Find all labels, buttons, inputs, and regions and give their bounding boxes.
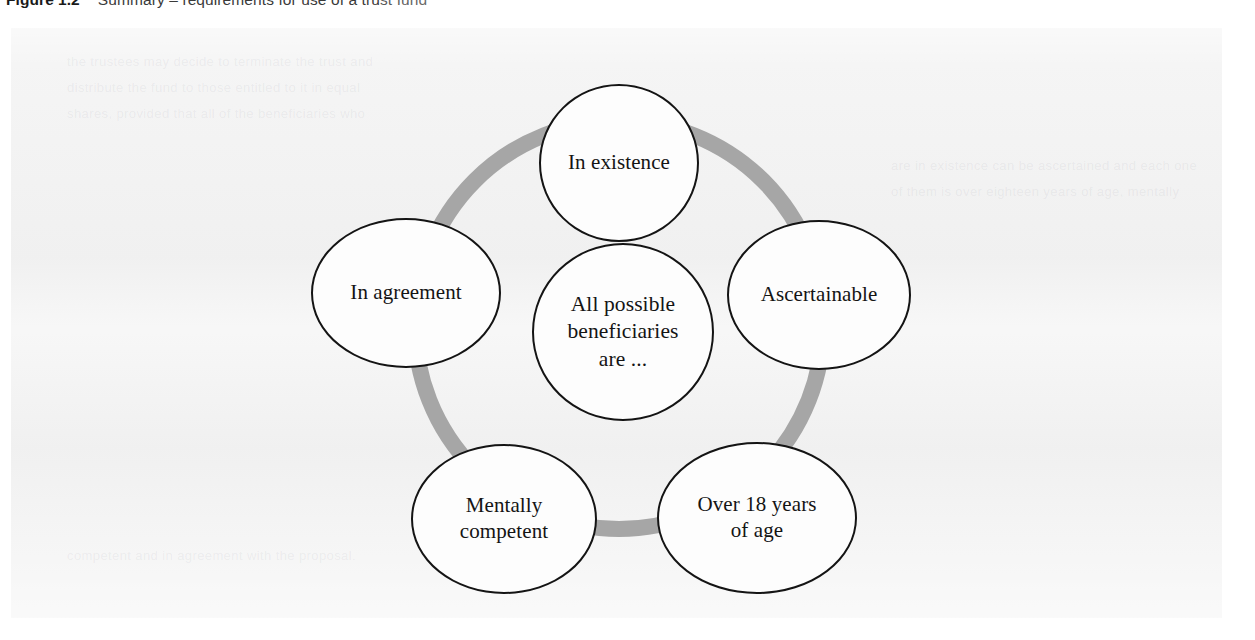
node-line: competent [460,519,548,543]
node-line: In agreement [350,280,461,304]
caption-fade-overlay [380,0,1255,26]
node-line: Mentally [466,493,543,517]
node-line: Ascertainable [761,282,878,306]
node-line: In existence [568,150,670,174]
node-line: Over 18 years [697,492,816,516]
node-center-all-possible-beneficiaries[interactable]: All possible beneficiaries are ... [532,243,714,421]
figure-caption: Figure1.2Summary – requirements for use … [0,0,1255,26]
figure-caption-text: Summary – requirements for use of a trus… [98,0,427,8]
node-line: All possible [571,292,676,316]
node-line: beneficiaries [567,319,678,343]
node-in-agreement[interactable]: In agreement [311,218,501,368]
node-mentally-competent-label: Mentally competent [454,493,554,544]
node-center-label: All possible beneficiaries are ... [561,291,684,374]
node-mentally-competent[interactable]: Mentally competent [411,444,597,594]
node-line: are ... [599,347,647,371]
figure-caption-number: 1.2 [58,0,80,8]
node-in-existence-label: In existence [562,150,676,176]
node-in-agreement-label: In agreement [344,280,467,306]
figure-panel: the trustees may decide to terminate the… [11,28,1222,618]
cycle-diagram: In existence Ascertainable Over 18 years… [11,28,1222,618]
figure-caption-line: Figure1.2Summary – requirements for use … [6,0,427,9]
node-in-existence[interactable]: In existence [539,84,699,242]
node-ascertainable-label: Ascertainable [755,282,884,308]
node-ascertainable[interactable]: Ascertainable [727,220,911,370]
node-line: of age [731,518,784,542]
node-over-18-label: Over 18 years of age [691,492,822,543]
figure-caption-label: Figure [6,0,54,8]
node-over-18-years-of-age[interactable]: Over 18 years of age [657,442,857,594]
